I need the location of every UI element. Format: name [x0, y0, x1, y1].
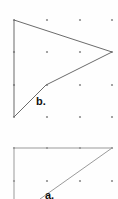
grid-dot	[111, 116, 113, 118]
grid-dot	[46, 180, 48, 182]
grid-dot	[79, 116, 81, 118]
worksheet-canvas: b. a.	[0, 0, 118, 199]
grid-dot	[46, 51, 48, 53]
grid-dot	[46, 116, 48, 118]
figure-a-legs	[14, 148, 112, 199]
figure-b-polygon	[14, 20, 112, 117]
grid-dot	[79, 51, 81, 53]
grid-dot	[111, 84, 113, 86]
grid-dot	[46, 19, 48, 21]
grid-dot	[79, 19, 81, 21]
grid-dot	[79, 180, 81, 182]
grid-dot	[111, 180, 113, 182]
grid-dot	[79, 84, 81, 86]
figure-a-label: a.	[45, 190, 54, 199]
grid-dot	[111, 19, 113, 21]
figure-b-label: b.	[36, 96, 46, 107]
dot-grid-figures-svg	[0, 0, 118, 199]
dot-grid-bottom	[13, 147, 113, 182]
